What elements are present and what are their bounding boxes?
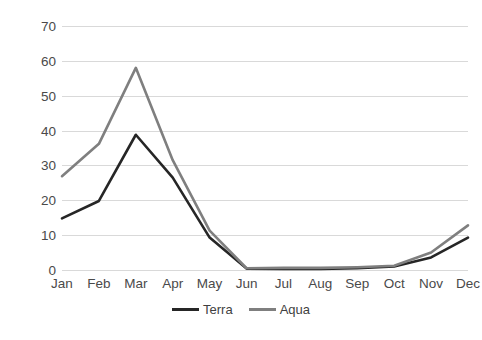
y-axis-tick-labels: 010203040506070 (20, 26, 56, 270)
x-axis-tick-labels: JanFebMarAprMayJunJulAugSepOctNovDec (62, 276, 468, 296)
y-axis-tick-label: 10 (22, 228, 56, 243)
x-axis-tick-label: Aug (308, 276, 332, 291)
y-axis-tick-label: 20 (22, 193, 56, 208)
x-axis-tick-label: Jan (51, 276, 73, 291)
chart-series-lines (62, 26, 468, 270)
y-axis-tick-label: 70 (22, 19, 56, 34)
series-line-aqua (62, 68, 468, 268)
x-axis-tick-label: Jun (236, 276, 258, 291)
x-axis-tick-label: Nov (419, 276, 443, 291)
legend-swatch-terra (172, 308, 199, 311)
plot-area (62, 26, 468, 270)
legend-entry-terra[interactable]: Terra (172, 302, 233, 317)
gridline (62, 270, 468, 271)
x-axis-tick-label: Jul (275, 276, 292, 291)
series-line-terra (62, 135, 468, 269)
x-axis-tick-label: Sep (345, 276, 369, 291)
x-axis-tick-label: Apr (162, 276, 183, 291)
legend-swatch-aqua (249, 308, 276, 311)
legend-label: Aqua (280, 302, 310, 317)
chart-figure: MODIS fire counts 010203040506070 JanFeb… (0, 0, 482, 340)
y-axis-tick-label: 30 (22, 158, 56, 173)
chart-legend: TerraAqua (0, 302, 482, 317)
y-axis-tick-label: 60 (22, 53, 56, 68)
y-axis-tick-label: 50 (22, 88, 56, 103)
x-axis-tick-label: Feb (87, 276, 110, 291)
x-axis-tick-label: Mar (124, 276, 147, 291)
y-axis-tick-label: 40 (22, 123, 56, 138)
legend-label: Terra (203, 302, 233, 317)
x-axis-tick-label: Oct (384, 276, 405, 291)
x-axis-tick-label: Dec (456, 276, 480, 291)
legend-entry-aqua[interactable]: Aqua (249, 302, 310, 317)
x-axis-tick-label: May (197, 276, 223, 291)
